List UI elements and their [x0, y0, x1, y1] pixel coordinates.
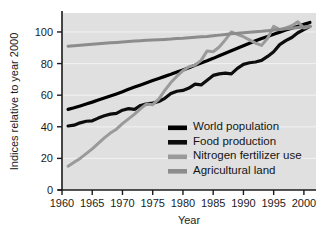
chart-page: 196019651970197519801985199019952000 020…: [0, 0, 334, 237]
x-axis-title: Year: [178, 214, 201, 226]
x-tick-label: 1985: [201, 197, 225, 209]
y-tick-label: 80: [41, 58, 53, 70]
legend-swatch: [168, 126, 187, 131]
x-tick-label: 1975: [140, 197, 164, 209]
legend-label: Food production: [193, 135, 276, 147]
legend-label: Nitrogen fertilizer use: [193, 149, 302, 161]
y-tick-label: 40: [41, 121, 53, 133]
legend-swatch: [168, 169, 187, 174]
line-chart: 196019651970197519801985199019952000 020…: [0, 0, 334, 237]
legend-label: World population: [193, 120, 279, 132]
x-tick-label: 1965: [80, 197, 104, 209]
x-tick-label: 2000: [292, 197, 316, 209]
legend-swatch: [168, 140, 187, 145]
y-tick-label: 100: [35, 26, 53, 38]
plot-area-background: [62, 13, 316, 190]
x-tick-label: 1960: [50, 197, 74, 209]
x-tick-label: 1970: [110, 197, 134, 209]
y-tick-label: 0: [47, 184, 53, 196]
x-tick-label: 1990: [231, 197, 255, 209]
x-tick-label: 1980: [171, 197, 195, 209]
legend-swatch: [168, 155, 187, 160]
y-tick-label: 60: [41, 89, 53, 101]
y-tick-label: 20: [41, 152, 53, 164]
y-axis-title: Indices relative to year 2000: [8, 33, 20, 171]
legend-label: Agricultural land: [193, 164, 275, 176]
x-tick-label: 1995: [261, 197, 285, 209]
